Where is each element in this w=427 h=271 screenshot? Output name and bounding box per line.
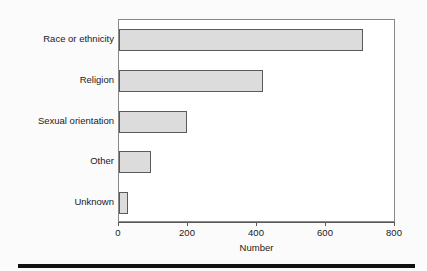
bar-race-or-ethnicity	[119, 29, 363, 51]
category-label-other: Other	[4, 150, 114, 172]
x-tick-label-0: 0	[98, 227, 138, 238]
category-label-religion: Religion	[4, 69, 114, 91]
bar-religion	[119, 70, 263, 92]
category-label-sexual-orientation: Sexual orientation	[4, 110, 114, 132]
x-tick-label-200: 200	[167, 227, 207, 238]
footer-divider-rule	[18, 264, 415, 268]
x-tick-label-600: 600	[305, 227, 345, 238]
x-tick-label-400: 400	[236, 227, 276, 238]
x-tick-mark-400	[256, 222, 257, 226]
bar-sexual-orientation	[119, 111, 187, 133]
x-tick-mark-200	[187, 222, 188, 226]
x-tick-mark-800	[394, 222, 395, 226]
x-tick-mark-0	[118, 222, 119, 226]
x-tick-mark-600	[325, 222, 326, 226]
bar-other	[119, 151, 151, 173]
bar-unknown	[119, 192, 128, 214]
category-label-race-or-ethnicity: Race or ethnicity	[4, 28, 114, 50]
plot-area	[118, 19, 395, 222]
category-label-unknown: Unknown	[4, 191, 114, 213]
bar-chart-figure: Race or ethnicityReligionSexual orientat…	[0, 0, 427, 271]
x-axis-title: Number	[118, 242, 395, 253]
category-axis-labels: Race or ethnicityReligionSexual orientat…	[4, 19, 114, 222]
x-tick-label-800: 800	[374, 227, 414, 238]
